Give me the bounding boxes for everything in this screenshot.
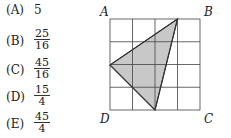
vertex-label-c: C (204, 112, 213, 126)
grid-lines (110, 19, 200, 110)
vertex-label-d: D (100, 112, 110, 126)
square-grid-figure (0, 0, 231, 138)
vertex-label-b: B (204, 5, 213, 19)
vertex-label-a: A (100, 5, 109, 19)
